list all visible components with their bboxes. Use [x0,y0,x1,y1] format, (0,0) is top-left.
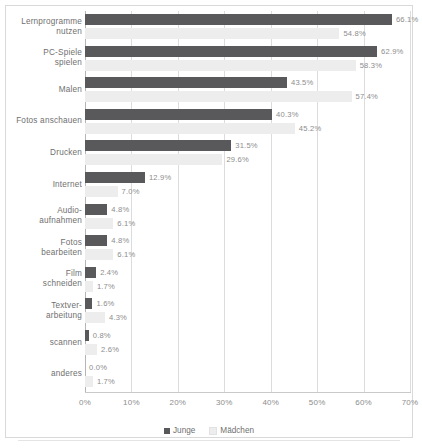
chart-legend: JungeMädchen [6,426,412,435]
bar-value-junge: 1.6% [96,298,114,309]
legend-item-junge[interactable]: Junge [164,426,195,435]
bar-value-maedchen: 7.0% [122,186,140,197]
bar-maedchen [85,60,356,71]
bar-maedchen [85,281,93,292]
bar-value-junge: 2.4% [100,267,118,278]
bar-value-maedchen: 4.3% [109,312,127,323]
chart-frame: JungeMädchen Lernprogrammenutzen66.1%54.… [5,5,413,438]
category-label: scannen [8,338,82,348]
bar-value-maedchen: 1.7% [97,376,115,387]
category-label-line: spielen [8,58,82,68]
x-tick-label: 30% [216,398,233,407]
category-label: Internet [8,180,82,190]
bar-value-junge: 4.8% [111,235,129,246]
category-label-line: Lernprogramme [8,17,82,27]
bar-value-maedchen: 45.2% [299,123,322,134]
bar-junge [85,298,92,309]
bar-value-junge: 0.8% [93,330,111,341]
bar-value-maedchen: 57.4% [356,91,379,102]
legend-item-maedchen[interactable]: Mädchen [209,426,254,435]
bar-value-junge: 12.9% [149,172,172,183]
x-tick-label: 40% [262,398,279,407]
bar-junge [85,172,145,183]
legend-swatch-icon [209,427,217,435]
bar-value-maedchen: 6.1% [117,249,135,260]
bar-maedchen [85,344,97,355]
x-tick-label: 20% [170,398,187,407]
legend-divider [18,440,400,441]
bar-value-maedchen: 2.6% [101,344,119,355]
x-tick-label: 0% [79,398,91,407]
bar-maedchen [85,249,113,260]
bar-value-junge: 4.8% [111,204,129,215]
category-label-line: schneiden [8,279,82,289]
bar-value-maedchen: 58.3% [360,60,383,71]
legend-label: Junge [173,426,195,435]
x-tick-label: 10% [123,398,140,407]
bar-maedchen [85,186,118,197]
legend-label: Mädchen [220,426,254,435]
bar-junge [85,140,231,151]
bar-value-maedchen: 1.7% [97,281,115,292]
x-tick-label: 50% [309,398,326,407]
bar-value-maedchen: 6.1% [117,218,135,229]
bar-junge [85,77,287,88]
category-label-line: Fotos anschauen [8,116,82,126]
x-tick-label: 70% [402,398,419,407]
bar-junge [85,14,392,25]
category-label-line: anderes [8,369,82,379]
category-label: Fotos anschauen [8,116,82,126]
bar-maedchen [85,154,222,165]
category-label-line: Fotos [8,238,82,248]
category-label: Textver-arbeitung [8,301,82,321]
category-label-line: Film [8,269,82,279]
gridline-70 [410,11,411,392]
bar-value-junge: 43.5% [291,77,314,88]
bar-junge [85,267,96,278]
bar-value-maedchen: 54.8% [343,28,366,39]
bar-maedchen [85,91,352,102]
category-label: Malen [8,85,82,95]
bar-value-junge: 40.3% [276,109,299,120]
category-label: Lernprogrammenutzen [8,17,82,37]
x-tick-label: 60% [355,398,372,407]
bar-value-junge: 62.9% [381,46,404,57]
category-label-line: Internet [8,180,82,190]
category-label-line: arbeitung [8,311,82,321]
bar-maedchen [85,312,105,323]
category-label: Drucken [8,148,82,158]
bar-maedchen [85,218,113,229]
category-label-line: Drucken [8,148,82,158]
category-label: Fotosbearbeiten [8,238,82,258]
bar-junge [85,330,89,341]
bar-junge [85,235,107,246]
legend-swatch-icon [164,428,170,434]
category-label-line: aufnahmen [8,216,82,226]
bar-value-maedchen: 29.6% [226,154,249,165]
bar-junge [85,109,272,120]
bar-junge [85,46,377,57]
category-label-line: Textver- [8,301,82,311]
category-label-line: Audio- [8,206,82,216]
category-label: anderes [8,369,82,379]
bar-maedchen [85,123,295,134]
category-label-line: Malen [8,85,82,95]
category-label-line: nutzen [8,27,82,37]
bar-value-junge: 66.1% [396,14,419,25]
bar-maedchen [85,376,93,387]
bar-value-junge: 31.5% [235,140,258,151]
category-label: PC-Spielespielen [8,48,82,68]
category-label: Audio-aufnahmen [8,206,82,226]
category-label-line: bearbeiten [8,248,82,258]
x-axis-line [85,392,411,393]
bar-value-junge: 0.0% [89,362,107,373]
bar-junge [85,204,107,215]
category-label-line: scannen [8,338,82,348]
category-label: Filmschneiden [8,269,82,289]
bar-maedchen [85,28,339,39]
category-label-line: PC-Spiele [8,48,82,58]
